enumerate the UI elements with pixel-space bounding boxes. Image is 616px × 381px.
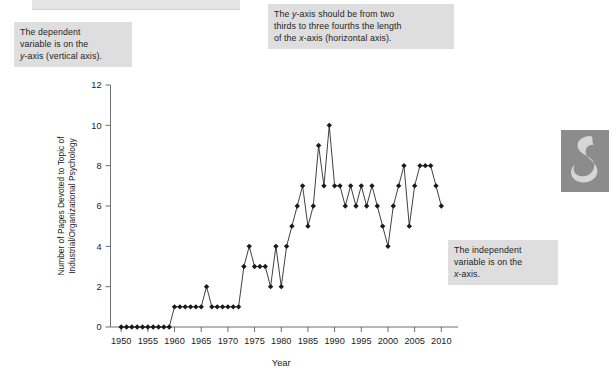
data-point-marker [134, 324, 139, 329]
x-tick-label: 1990 [324, 336, 344, 346]
data-point-marker [401, 163, 406, 168]
series-line [121, 125, 441, 327]
data-point-marker [279, 284, 284, 289]
figure-root: The dependent variable is on the y-axis … [0, 0, 616, 381]
data-point-marker [327, 123, 332, 128]
data-point-marker [353, 203, 358, 208]
y-tick-label: 4 [96, 242, 101, 252]
data-point-marker [300, 183, 305, 188]
data-point-marker [220, 304, 225, 309]
data-point-marker [332, 183, 337, 188]
y-axis-title-line1: Number of Pages Devoted to Topic of [56, 136, 66, 276]
x-tick-label: 1995 [351, 336, 371, 346]
y-tick-label: 10 [91, 121, 101, 131]
data-point-marker [252, 264, 257, 269]
x-tick-label: 1980 [271, 336, 291, 346]
x-tick-label: 1950 [111, 336, 131, 346]
data-point-marker [385, 244, 390, 249]
data-point-marker [412, 183, 417, 188]
data-point-marker [337, 183, 342, 188]
data-point-marker [204, 284, 209, 289]
data-point-marker [161, 324, 166, 329]
data-point-marker [273, 244, 278, 249]
data-point-marker [359, 183, 364, 188]
x-tick-label: 1965 [191, 336, 211, 346]
x-tick-label: 1955 [138, 336, 158, 346]
data-point-marker [311, 203, 316, 208]
data-point-marker [118, 324, 123, 329]
data-point-marker [193, 304, 198, 309]
data-point-marker [177, 304, 182, 309]
y-tick-label: 2 [96, 282, 101, 292]
data-point-marker [375, 203, 380, 208]
data-point-marker [439, 203, 444, 208]
x-tick-label: 2005 [404, 336, 424, 346]
data-point-marker [391, 203, 396, 208]
data-point-marker [407, 223, 412, 228]
data-point-marker [140, 324, 145, 329]
y-axis-title-line2: Industrial/Organizational Psychology [67, 137, 77, 273]
data-point-marker [167, 324, 172, 329]
data-point-marker [433, 183, 438, 188]
data-point-marker [257, 264, 262, 269]
data-point-marker [284, 244, 289, 249]
data-point-marker [129, 324, 134, 329]
data-point-marker [209, 304, 214, 309]
data-point-marker [321, 183, 326, 188]
data-point-marker [172, 304, 177, 309]
data-point-marker [343, 203, 348, 208]
data-point-marker [417, 163, 422, 168]
chart-svg: 0246810121950195519601965197019751980198… [0, 0, 616, 381]
y-tick-label: 8 [96, 161, 101, 171]
data-point-marker [225, 304, 230, 309]
data-point-marker [145, 324, 150, 329]
data-point-marker [295, 203, 300, 208]
data-point-marker [124, 324, 129, 329]
data-point-marker [268, 284, 273, 289]
data-point-marker [423, 163, 428, 168]
data-point-marker [236, 304, 241, 309]
chart-plot-area: 0246810121950195519601965197019751980198… [0, 0, 616, 381]
data-point-marker [241, 264, 246, 269]
data-point-marker [199, 304, 204, 309]
y-tick-label: 6 [96, 201, 101, 211]
data-point-marker [231, 304, 236, 309]
data-point-marker [289, 223, 294, 228]
x-tick-label: 1975 [244, 336, 264, 346]
y-tick-label: 0 [96, 322, 101, 332]
data-point-marker [156, 324, 161, 329]
data-point-marker [428, 163, 433, 168]
data-point-marker [305, 223, 310, 228]
x-tick-label: 2010 [431, 336, 451, 346]
data-point-marker [263, 264, 268, 269]
data-point-marker [188, 304, 193, 309]
y-tick-label: 12 [91, 80, 101, 90]
x-axis-title: Year [272, 357, 291, 368]
data-point-marker [348, 183, 353, 188]
data-point-marker [316, 143, 321, 148]
x-tick-label: 1970 [218, 336, 238, 346]
data-point-marker [247, 244, 252, 249]
data-point-marker [369, 183, 374, 188]
data-point-marker [380, 223, 385, 228]
x-tick-label: 1960 [164, 336, 184, 346]
data-point-marker [150, 324, 155, 329]
data-point-marker [215, 304, 220, 309]
x-tick-label: 1985 [298, 336, 318, 346]
data-point-marker [396, 183, 401, 188]
x-tick-label: 2000 [378, 336, 398, 346]
data-point-marker [364, 203, 369, 208]
data-point-marker [183, 304, 188, 309]
